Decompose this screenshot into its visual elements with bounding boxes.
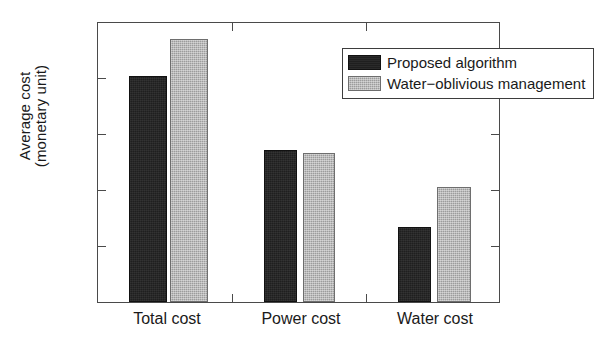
y-tick-1 [98, 246, 106, 247]
bar-water-oblivious-water-cost [437, 187, 471, 302]
legend-swatch-water-oblivious-management [348, 76, 381, 91]
x-tick-1 [232, 294, 233, 302]
legend-label-water-oblivious-management: Water−oblivious management [387, 76, 585, 91]
y-axis-label-line-1: Average cost [17, 72, 33, 160]
y-tick-right-0 [491, 302, 499, 303]
bar-proposed-water-cost [398, 227, 431, 302]
x-tick-label-water-cost: Water cost [355, 310, 515, 328]
y-tick-4 [98, 78, 106, 79]
y-tick-2 [98, 190, 106, 191]
x-tick-top-2 [366, 23, 367, 31]
y-axis-label-line-2: (monetary unit) [33, 65, 49, 167]
y-axis-label: Average cost (monetary unit) [11, 21, 55, 211]
bar-proposed-power-cost [264, 150, 297, 302]
bar-water-oblivious-power-cost [303, 153, 335, 303]
y-tick-0 [98, 302, 106, 303]
bar-proposed-total-cost [129, 76, 167, 303]
legend-item-proposed-algorithm: Proposed algorithm [348, 52, 588, 73]
legend-swatch-proposed-algorithm [348, 55, 381, 70]
y-tick-3 [98, 134, 106, 135]
x-tick-top-1 [232, 23, 233, 31]
x-tick-2 [366, 294, 367, 302]
bar-water-oblivious-total-cost [170, 39, 208, 302]
plot-area: 0 0.1 0.2 0.3 0.4 0.5 Prop [97, 22, 500, 303]
legend-item-water-oblivious-management: Water−oblivious management [348, 73, 588, 94]
chart-legend: Proposed algorithm Water−oblivious manag… [342, 48, 594, 99]
y-tick-right-3 [491, 134, 499, 135]
y-tick-right-1 [491, 246, 499, 247]
legend-label-proposed-algorithm: Proposed algorithm [387, 55, 517, 70]
y-tick-right-2 [491, 190, 499, 191]
